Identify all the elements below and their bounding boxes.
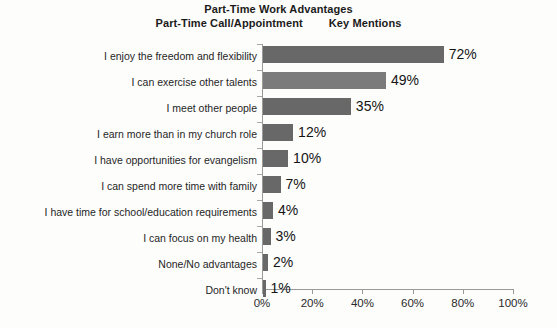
bar[interactable] [263,98,351,115]
x-axis-tick [362,289,363,294]
bar[interactable] [263,72,386,89]
y-axis-tick [257,226,262,227]
bar-row: I can exercise other talents49% [0,70,557,96]
x-axis-tick [312,289,313,294]
y-axis-tick [257,70,262,71]
category-label: I enjoy the freedom and flexibility [104,48,257,65]
chart-title: Part-Time Work Advantages [0,2,557,16]
y-axis-tick [257,200,262,201]
category-label: Don't know [205,282,257,299]
bar-value-label: 3% [276,227,296,245]
bar-value-label: 2% [273,253,293,271]
bar-value-label: 1% [271,279,291,297]
y-axis-tick [257,148,262,149]
chart-titles: Part-Time Work Advantages Part-Time Call… [0,2,557,30]
bar-row: I can focus on my health3% [0,226,557,252]
category-label: None/No advantages [158,256,257,273]
x-axis-tick [262,289,263,294]
y-axis-tick [257,252,262,253]
y-axis-tick [257,278,262,279]
bar-value-label: 72% [449,45,477,63]
x-axis-tick-label: 20% [301,296,324,310]
bar[interactable] [263,124,293,141]
y-axis-tick [257,96,262,97]
bar[interactable] [263,228,271,245]
bar-value-label: 10% [293,149,321,167]
bar-row: I can spend more time with family7% [0,174,557,200]
bar-value-label: 12% [298,123,326,141]
bar-value-label: 35% [356,97,384,115]
x-axis-tick-label: 0% [254,296,271,310]
bar[interactable] [263,202,273,219]
bar-row: I have opportunities for evangelism10% [0,148,557,174]
bar-value-label: 49% [391,71,419,89]
x-axis-tick-label: 60% [401,296,424,310]
bar-row: I earn more than in my church role12% [0,122,557,148]
category-label: I have opportunities for evangelism [94,152,257,169]
bar-value-label: 4% [278,201,298,219]
bar[interactable] [263,254,268,271]
bar[interactable] [263,46,444,63]
y-axis-tick [257,44,262,45]
y-axis-tick [257,122,262,123]
category-label: I have time for school/education require… [45,204,257,221]
x-axis-tick [413,289,414,294]
x-axis-tick [463,289,464,294]
bar-row: I have time for school/education require… [0,200,557,226]
bar[interactable] [263,280,266,297]
x-axis-tick-label: 40% [351,296,374,310]
y-axis-tick [257,304,262,305]
bar[interactable] [263,150,288,167]
x-axis-tick-label: 100% [498,296,527,310]
category-label: I can focus on my health [143,230,257,247]
x-axis-tick-label: 80% [451,296,474,310]
chart-subtitle: Part-Time Call/Appointment Key Mentions [0,16,557,30]
chart-page: Part-Time Work Advantages Part-Time Call… [0,0,557,328]
bar-row: I meet other people35% [0,96,557,122]
category-label: I earn more than in my church role [97,126,257,143]
bar-chart: I enjoy the freedom and flexibility72%I … [0,36,557,328]
x-axis-tick [513,289,514,294]
chart-subtitle-right: Key Mentions [329,16,402,30]
category-label: I can spend more time with family [101,178,257,195]
chart-subtitle-left: Part-Time Call/Appointment [156,16,303,30]
bar[interactable] [263,176,281,193]
category-label: I can exercise other talents [132,74,257,91]
y-axis-tick [257,174,262,175]
bar-value-label: 7% [286,175,306,193]
bar-row: I enjoy the freedom and flexibility72% [0,44,557,70]
category-label: I meet other people [167,100,257,117]
bar-row: None/No advantages2% [0,252,557,278]
